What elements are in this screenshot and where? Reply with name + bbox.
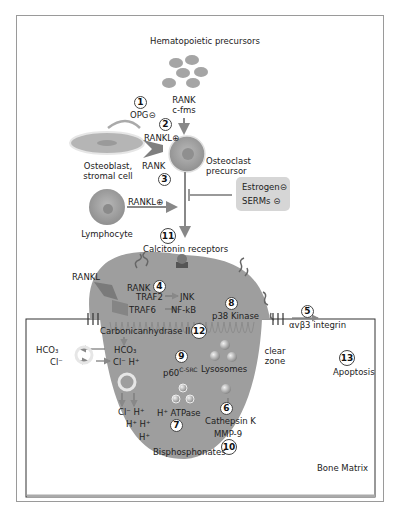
step-11-badge: 11: [160, 228, 176, 244]
zone-label: zone: [260, 356, 290, 366]
rank-label: RANK: [168, 95, 200, 105]
hco3-in-label: HCO₃: [114, 345, 136, 355]
step-5-badge: 5: [301, 305, 314, 318]
estrogen-label: Estrogen⊝: [242, 182, 287, 192]
bone-matrix-label: Bone Matrix: [317, 463, 368, 473]
step-7-badge: 7: [170, 419, 183, 432]
step-3-badge: 3: [158, 173, 171, 186]
opg-label: OPG⊝: [130, 110, 156, 120]
cfms-label: c-fms: [168, 105, 200, 115]
rankl-lymphocyte-label: RANKL⊕: [128, 197, 163, 207]
serms-label: SERMs ⊝: [242, 196, 280, 206]
h-label: H⁺: [139, 432, 150, 442]
osteoblast-label: Osteoblast,: [68, 161, 148, 171]
hco3-out-label: HCO₃: [36, 345, 58, 355]
integrin-label: αvβ3 integrin: [289, 320, 346, 330]
step-8-badge: 8: [225, 297, 238, 310]
step-6-badge: 6: [220, 402, 233, 415]
hematopoietic-label: Hematopoietic precursors: [150, 36, 220, 46]
rankl-cell-label: RANKL: [72, 272, 100, 282]
h-h-label: H⁺ H⁺: [126, 419, 150, 429]
hematopoietic-cells: [162, 55, 208, 88]
p60-label: p60C-SRC: [163, 365, 197, 378]
step-12-badge: 12: [191, 323, 207, 339]
diagram-canvas: [0, 0, 399, 521]
step-2-badge: 2: [159, 118, 172, 131]
osteoclast-label: Osteoclast: [206, 156, 251, 166]
step-9-badge: 9: [175, 350, 188, 363]
rankl-plus-label: RANKL⊕: [144, 133, 179, 143]
jnk-label: JNK: [180, 292, 194, 302]
rank-precursor-label: RANK: [142, 161, 165, 171]
cathepsin-label: Cathepsin K: [205, 416, 256, 426]
p38-label: p38 Kinase: [212, 311, 259, 321]
traf2-label: TRAF2: [136, 292, 163, 302]
traf6-label: TRAF6: [129, 305, 156, 315]
apoptosis-label: Apoptosis: [333, 367, 375, 377]
mmp9-label: MMP-9: [214, 429, 242, 439]
lysosomes-label: Lysosomes: [201, 364, 247, 374]
lymphocyte-label: Lymphocyte: [72, 229, 142, 239]
step-13-badge: 13: [339, 350, 355, 366]
stromal-cell-label: stromal cell: [68, 171, 148, 181]
atpase-label: H⁺ ATPase: [157, 408, 201, 418]
carbonic-label: Carbonicanhydrase II: [100, 326, 190, 336]
nfkb-label: NF-kB: [171, 305, 196, 315]
bisphosphonates-label: Bisphosphonates: [153, 447, 226, 457]
clear-label: clear: [260, 346, 290, 356]
cl-out-label: Cl⁻: [50, 357, 63, 367]
step-1-badge: 1: [134, 96, 147, 109]
cl-h-label: Cl⁻ H⁺: [113, 357, 139, 367]
calcitonin-label: Calcitonin receptors: [143, 244, 228, 254]
precursor-label: precursor: [206, 166, 247, 176]
cl-h-bottom-label: Cl⁻ H⁺: [118, 407, 144, 417]
